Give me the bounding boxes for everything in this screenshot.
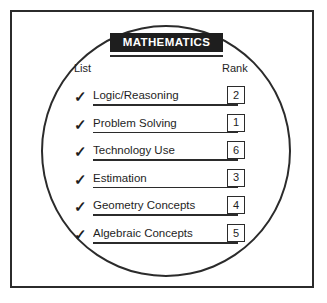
list-item-label: Estimation (93, 171, 239, 186)
rank-box[interactable]: 2 (227, 86, 245, 104)
list-item[interactable]: ✓Geometry Concepts4 (74, 197, 252, 224)
list-item-underline (93, 159, 238, 161)
list-item[interactable]: ✓Problem Solving1 (74, 115, 252, 142)
list-item-label: Technology Use (93, 143, 239, 158)
list-item-underline (93, 132, 238, 134)
list-item-underline (93, 187, 238, 189)
rank-value: 4 (233, 200, 239, 211)
list-item-label: Algebraic Concepts (93, 226, 239, 241)
rank-value: 6 (233, 145, 239, 156)
rank-box[interactable]: 6 (227, 141, 245, 159)
list-item-underline (93, 214, 238, 216)
checkmark-icon[interactable]: ✓ (74, 89, 89, 105)
list-item[interactable]: ✓Logic/Reasoning2 (74, 87, 252, 114)
rank-box[interactable]: 5 (227, 224, 245, 242)
list-item-label: Problem Solving (93, 116, 239, 131)
rank-value: 3 (233, 172, 239, 183)
checkmark-icon[interactable]: ✓ (74, 172, 89, 188)
checkmark-icon[interactable]: ✓ (74, 199, 89, 215)
checkmark-icon[interactable]: ✓ (74, 117, 89, 133)
list-item[interactable]: ✓Algebraic Concepts5 (74, 225, 252, 252)
rank-value: 2 (233, 90, 239, 101)
rank-box[interactable]: 4 (227, 196, 245, 214)
worksheet-diagram: MATHEMATICS List Rank ✓Logic/Reasoning2✓… (0, 0, 327, 303)
rank-box[interactable]: 3 (227, 169, 245, 187)
list-item-label: Geometry Concepts (93, 198, 239, 213)
list-item[interactable]: ✓Estimation3 (74, 170, 252, 197)
checkmark-icon[interactable]: ✓ (74, 144, 89, 160)
list-item-label: Logic/Reasoning (93, 88, 239, 103)
rank-value: 1 (233, 117, 239, 128)
list-rows: ✓Logic/Reasoning2✓Problem Solving1✓Techn… (0, 0, 327, 303)
checkmark-icon[interactable]: ✓ (74, 227, 89, 243)
list-item-underline (93, 104, 238, 106)
rank-box[interactable]: 1 (227, 114, 245, 132)
list-item[interactable]: ✓Technology Use6 (74, 142, 252, 169)
rank-value: 5 (233, 228, 239, 239)
list-item-underline (93, 242, 238, 244)
